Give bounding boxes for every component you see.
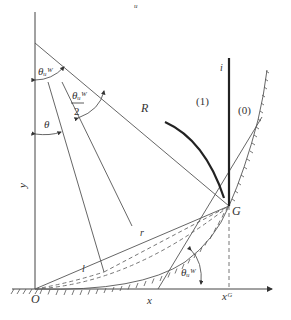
- label-theta: θ: [44, 118, 50, 130]
- title-fragment: u: [134, 2, 138, 10]
- label-phase-0: (0): [238, 104, 251, 117]
- wetting-geometry-diagram: u θᵤᵂ θᵤᵂ 2 θ θᵤᵂ R i (1) (0) G: [0, 0, 291, 320]
- label-origin-O: O: [31, 292, 40, 306]
- label-theta-w-half-num: θᵤᵂ: [72, 89, 88, 101]
- label-theta-w-bottom: θᵤᵂ: [181, 266, 197, 278]
- tangent-line: [158, 117, 262, 289]
- angle-arc-theta: [35, 132, 61, 135]
- label-chord-l: l: [82, 263, 85, 274]
- label-theta-w-top: θᵤᵂ: [38, 65, 54, 77]
- bisector-ray: [62, 82, 132, 226]
- label-interface-i: i: [220, 62, 223, 73]
- chord-og: [35, 206, 229, 289]
- label-radius-R: R: [140, 101, 149, 115]
- label-x-tick: xᴳ: [221, 290, 233, 302]
- label-phase-1: (1): [196, 95, 209, 108]
- label-theta-w-half-den: 2: [74, 105, 80, 117]
- label-x-axis: x: [146, 294, 152, 306]
- label-chord-r: r: [140, 227, 144, 238]
- label-point-G: G: [232, 204, 241, 218]
- label-y-axis: y: [16, 183, 28, 189]
